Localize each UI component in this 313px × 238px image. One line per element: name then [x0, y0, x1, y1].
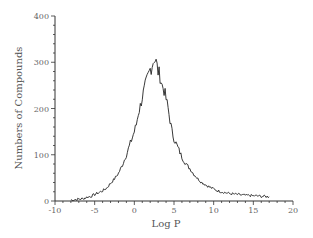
x-tick-label: 20 [288, 206, 298, 215]
y-tick-label: 400 [34, 12, 49, 21]
x-tick-label: 5 [171, 206, 176, 215]
y-tick-label: 300 [34, 58, 49, 67]
y-axis: 0100200300400 [34, 12, 55, 206]
y-tick-label: 0 [44, 197, 49, 206]
x-axis: -10-505101520 [49, 201, 299, 215]
x-tick-label: 10 [209, 206, 219, 215]
y-axis-title: Numbers of Compounds [13, 47, 24, 170]
x-tick-label: 0 [132, 206, 137, 215]
x-tick-label: 15 [248, 206, 258, 215]
histogram-chart: 0100200300400 -10-505101520 Numbers of C… [0, 0, 313, 238]
y-tick-label: 100 [34, 151, 49, 160]
data-line [71, 59, 269, 201]
y-tick-label: 200 [34, 105, 49, 114]
x-tick-label: -5 [91, 206, 99, 215]
x-tick-label: -10 [49, 206, 62, 215]
x-axis-title: Log P [152, 218, 181, 229]
